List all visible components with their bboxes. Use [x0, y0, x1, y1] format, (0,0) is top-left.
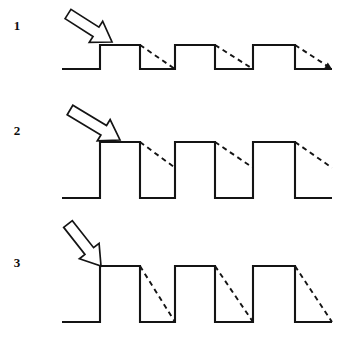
panel-label-1: 1 [14, 18, 21, 33]
waveform-figure: 123 [0, 0, 341, 340]
figure-canvas: 123 [0, 0, 341, 340]
panel-label-2: 2 [14, 123, 21, 138]
panel-label-3: 3 [14, 255, 21, 270]
figure-background [0, 0, 341, 340]
